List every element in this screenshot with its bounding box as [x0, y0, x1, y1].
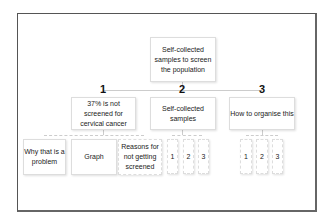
leaf-label: Graph [84, 152, 103, 162]
leaf-label: Why that is a problem [24, 147, 65, 167]
branch-label-3: How to organise this [230, 109, 293, 119]
branch-label-1: 37% is not screened for cervical cancer [72, 99, 135, 129]
leaf-2-1: 1 [167, 139, 178, 174]
leaf-1-2: Graph [71, 139, 117, 175]
leaf-2-2: 2 [183, 139, 194, 174]
branch-node-3: How to organise this [229, 97, 295, 130]
leaf-label: 1 [171, 152, 175, 162]
branch3-leaf-bar [246, 135, 278, 136]
branch-label-2: Self-collected samples [151, 104, 215, 124]
leaf-3-3: 3 [272, 139, 283, 174]
leaf-1-1: Why that is a problem [23, 139, 66, 175]
leaf-label: 2 [187, 152, 191, 162]
leaf-3-1: 1 [240, 139, 252, 174]
branch2-leaf-bar [172, 135, 202, 136]
leaf-label: 3 [276, 152, 280, 162]
leaf-1-3: Reasons for not getting screened [118, 139, 162, 175]
branch-number-2: 2 [179, 83, 185, 95]
branch-number-3: 3 [259, 83, 265, 95]
root-label: Self-collected samples to screen the pop… [151, 45, 215, 75]
branch1-leaf-bar [44, 135, 144, 136]
branch-node-2: Self-collected samples [150, 97, 216, 130]
leaf-2-3: 3 [198, 139, 209, 174]
leaf-3-2: 2 [256, 139, 268, 174]
leaf-label: Reasons for not getting screened [119, 142, 161, 172]
branch-number-1: 1 [100, 83, 106, 95]
branch-node-1: 37% is not screened for cervical cancer [71, 97, 136, 130]
leaf-label: 1 [244, 152, 248, 162]
leaf-label: 3 [202, 152, 206, 162]
leaf-label: 2 [260, 152, 264, 162]
root-node: Self-collected samples to screen the pop… [150, 37, 216, 82]
